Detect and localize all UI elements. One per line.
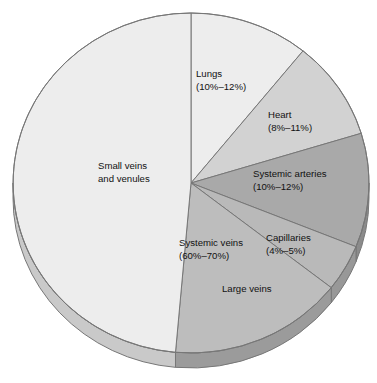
pie-slices-group bbox=[13, 13, 369, 353]
pie-label-capillaries: Capillaries(4%–5%) bbox=[266, 232, 311, 256]
pie-label-small-veins-and-venules: Small veinsand venules bbox=[98, 160, 150, 184]
pie-chart-svg: Lungs(10%–12%)Heart(8%–11%)Systemic arte… bbox=[0, 0, 377, 383]
pie-chart-figure: Lungs(10%–12%)Heart(8%–11%)Systemic arte… bbox=[0, 0, 377, 383]
pie-label-large-veins: Large veins bbox=[222, 283, 272, 294]
